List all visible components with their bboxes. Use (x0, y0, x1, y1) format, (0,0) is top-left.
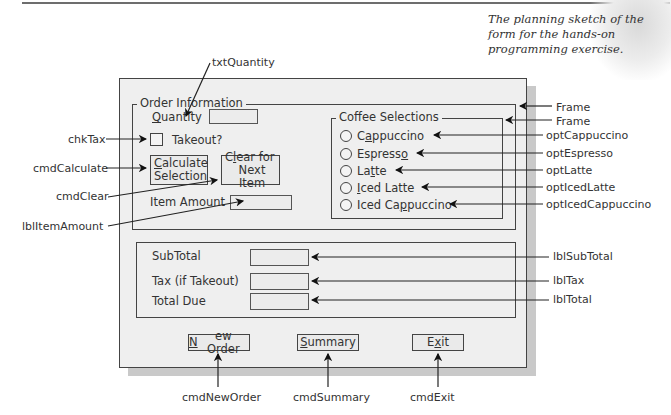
annotation-arrows (0, 0, 671, 415)
